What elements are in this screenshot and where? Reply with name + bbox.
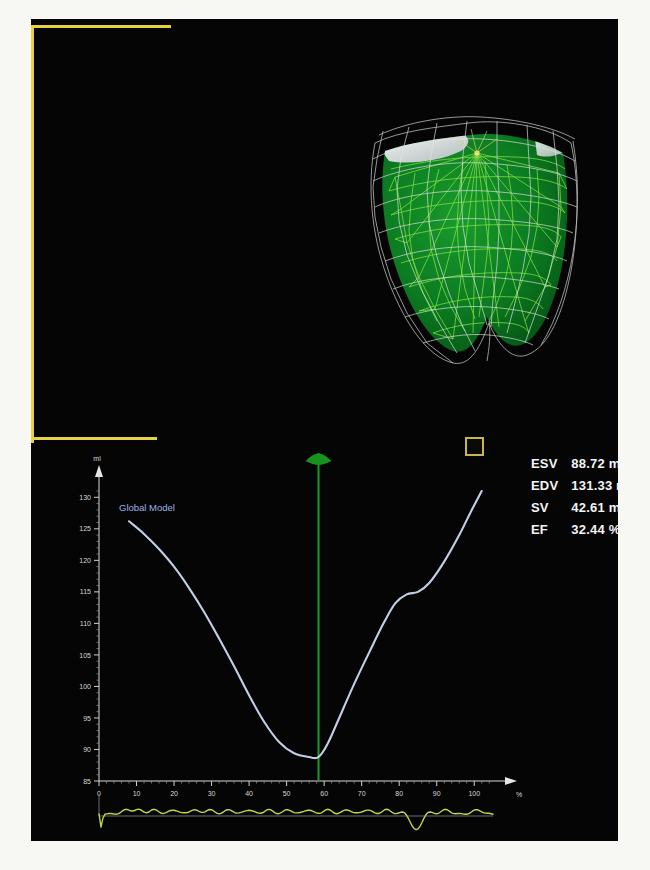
y-tick-label: 120 [79,557,91,564]
metric-label-sv: SV [531,498,571,520]
application-window: ESV 88.72 ml EDV 131.33 ml SV 42.61 ml E… [0,0,650,870]
y-tick-label: 115 [80,588,91,595]
y-tick-label: 95 [83,715,91,722]
selection-bracket-bottom [31,437,157,440]
volume-curve [129,491,482,758]
selection-bracket-left [31,25,34,443]
volume-time-curve-chart[interactable]: 8590951001051101151201251300102030405060… [43,449,513,799]
y-tick-label: 130 [79,494,91,501]
y-axis-unit-label: ml [93,455,101,462]
metric-row-esv: ESV 88.72 ml [531,454,618,476]
3d-ventricle-mesh[interactable] [349,81,599,371]
ecg-waveform-path [99,809,493,830]
y-tick-label: 90 [83,746,91,753]
x-axis-arrow [505,777,517,785]
volume-metrics-readout: ESV 88.72 ml EDV 131.33 ml SV 42.61 ml E… [531,454,618,542]
chart-legend-label: Global Model [119,502,175,513]
y-tick-label: 110 [80,620,91,627]
y-tick-label: 105 [79,652,91,659]
metric-value-ef: 32.44 % [571,520,618,542]
metric-label-ef: EF [531,520,571,542]
metric-row-edv: EDV 131.33 ml [531,476,618,498]
metric-label-edv: EDV [531,476,571,498]
ecg-trace-strip [43,794,513,841]
metric-label-esv: ESV [531,454,571,476]
cursor-handle [306,453,332,465]
y-tick-label: 100 [79,683,91,690]
viewport-panel: ESV 88.72 ml EDV 131.33 ml SV 42.61 ml E… [31,19,618,841]
metric-row-ef: EF 32.44 % [531,520,618,542]
metric-value-sv: 42.61 ml [571,498,618,520]
metric-row-sv: SV 42.61 ml [531,498,618,520]
x-axis-unit-label: % [516,791,522,798]
y-tick-label: 125 [79,525,91,532]
metric-value-edv: 131.33 ml [571,476,618,498]
y-axis-arrow [95,465,103,477]
selection-bracket-top [31,25,171,28]
y-tick-label: 85 [83,778,91,785]
metric-value-esv: 88.72 ml [571,454,618,476]
